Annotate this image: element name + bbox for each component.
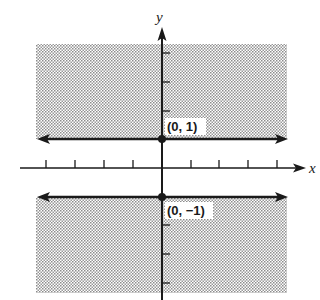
x-axis-label: x: [308, 160, 316, 176]
y-axis-label: y: [154, 9, 163, 25]
point-upper-dot-icon: [158, 135, 166, 143]
graph-canvas: x y (0, 1) (0, −1): [0, 0, 320, 300]
point-lower-dot-icon: [158, 193, 166, 201]
point-label-lower: (0, −1): [167, 203, 205, 218]
point-label-upper: (0, 1): [167, 119, 197, 134]
